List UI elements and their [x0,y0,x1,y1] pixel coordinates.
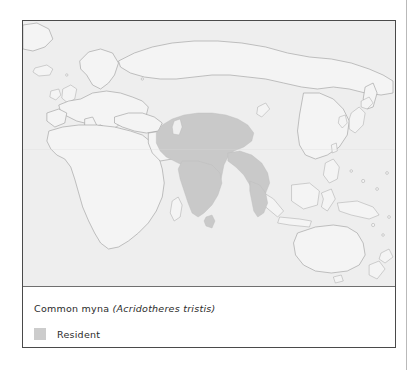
figure-caption: Common myna (Acridotheres tristis) [34,303,395,315]
pacific-island-speck [382,234,385,237]
coastline-ireland [50,89,61,100]
pacific-island-speck [388,216,391,219]
range-sri-lanka [204,215,215,228]
coastline-sulawesi [321,189,335,211]
coastline-new-zealand-south [369,261,385,279]
coastline-scandinavia [80,49,119,89]
coastline-siberia [118,41,393,95]
scan-artifact-band [23,149,395,150]
pacific-island-speck [376,188,379,191]
coastline-australia [294,225,366,273]
legend-panel: Common myna (Acridotheres tristis) Resid… [23,287,395,347]
pacific-island-speck [386,172,389,175]
distribution-map-figure: Common myna (Acridotheres tristis) Resid… [22,20,396,348]
coastline-new-guinea [337,201,379,219]
page-margin-rule [406,0,407,370]
coastline-iberia [47,109,67,127]
coastline-new-zealand-north [379,249,393,263]
pacific-island-speck [372,223,375,226]
lake-baikal [257,103,270,117]
coastline-tasmania [333,275,343,283]
world-map [23,21,395,286]
caption-scientific-name: (Acridotheres tristis) [113,303,216,314]
map-panel [23,21,395,286]
coastline-japan [349,107,365,133]
coastline-philippines [323,159,339,183]
range-india-peninsula [178,161,222,217]
coastline-iceland [33,65,53,76]
coastline-africa [47,125,164,249]
pacific-island-speck [362,179,365,182]
pacific-island-speck [141,78,143,80]
coastline-greenland [23,23,53,51]
caption-common-name: Common myna [34,303,109,314]
coastline-madagascar [170,197,182,221]
pacific-island-speck [350,170,353,173]
legend-item-resident: Resident [34,328,395,340]
legend-swatch-resident [34,328,46,340]
coastline-borneo [292,183,320,209]
legend-label-resident: Resident [57,329,100,340]
coastline-java [278,217,312,227]
pacific-island-speck [66,74,68,76]
coastline-taiwan [331,143,337,153]
